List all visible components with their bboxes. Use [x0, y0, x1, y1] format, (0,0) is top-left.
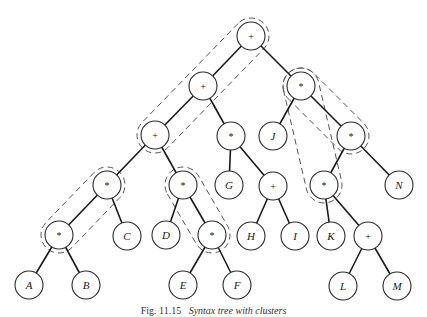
- operand-node-n: N: [385, 171, 413, 199]
- syntax-tree-diagram: ++*+*J***G+*N*CD*HIK+ABEFLM: [0, 0, 427, 317]
- node-label: +: [248, 31, 254, 42]
- clusters-layer: [41, 18, 369, 253]
- nodes-layer: ++*+*J***G+*N*CD*HIK+ABEFLM: [15, 22, 413, 300]
- node-label: F: [233, 279, 241, 291]
- plus-operator-node: +: [141, 121, 169, 149]
- node-label: H: [246, 230, 256, 242]
- multiply-operator-node: *: [217, 122, 245, 150]
- node-label: *: [57, 230, 62, 241]
- node-label: *: [210, 230, 215, 241]
- node-label: B: [83, 279, 90, 291]
- node-label: *: [349, 131, 354, 142]
- node-label: +: [200, 81, 206, 92]
- node-label: M: [391, 280, 402, 292]
- multiply-operator-node: *: [337, 122, 365, 150]
- operand-node-g: G: [215, 171, 243, 199]
- node-label: *: [105, 180, 110, 191]
- plus-operator-node: +: [259, 172, 287, 200]
- multiply-operator-node: *: [169, 171, 197, 199]
- node-label: +: [365, 231, 371, 242]
- node-label: A: [25, 279, 33, 291]
- figure-number: Fig. 11.15: [141, 305, 181, 316]
- node-label: C: [123, 230, 131, 242]
- operand-node-i: I: [281, 222, 309, 250]
- node-label: *: [229, 131, 234, 142]
- multiply-operator-node: *: [198, 221, 226, 249]
- multiply-operator-node: *: [287, 72, 315, 100]
- node-label: *: [181, 180, 186, 191]
- operand-node-a: A: [15, 271, 43, 299]
- operand-node-l: L: [329, 272, 357, 300]
- node-label: N: [394, 179, 403, 191]
- node-label: D: [161, 229, 170, 241]
- figure-caption: Fig. 11.15 Syntax tree with clusters: [0, 305, 427, 316]
- node-label: E: [179, 279, 187, 291]
- operand-node-c: C: [113, 222, 141, 250]
- plus-operator-node: +: [189, 72, 217, 100]
- node-label: K: [326, 230, 335, 242]
- operand-node-j: J: [259, 122, 287, 150]
- multiply-operator-node: *: [310, 171, 338, 199]
- node-label: *: [299, 81, 304, 92]
- multiply-operator-node: *: [45, 221, 73, 249]
- operand-node-d: D: [152, 221, 180, 249]
- operand-node-h: H: [237, 222, 265, 250]
- node-label: *: [322, 180, 327, 191]
- node-label: G: [225, 179, 233, 191]
- multiply-operator-node: *: [93, 171, 121, 199]
- node-label: +: [152, 130, 158, 141]
- plus-operator-node: +: [354, 222, 382, 250]
- operand-node-m: M: [383, 272, 411, 300]
- operand-node-k: K: [317, 222, 345, 250]
- figure-title: Syntax tree with clusters: [189, 305, 287, 316]
- node-label: +: [270, 181, 276, 192]
- plus-operator-node: +: [237, 22, 265, 50]
- node-label: L: [339, 280, 346, 292]
- operand-node-b: B: [72, 271, 100, 299]
- operand-node-f: F: [223, 271, 251, 299]
- operand-node-e: E: [169, 271, 197, 299]
